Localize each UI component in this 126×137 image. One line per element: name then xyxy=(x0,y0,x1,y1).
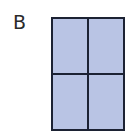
shaded-grid xyxy=(51,17,125,131)
grid-cell-bottom-right xyxy=(88,74,123,129)
grid-cell-top-left xyxy=(53,19,88,74)
grid-cell-top-right xyxy=(88,19,123,74)
grid-cell-bottom-left xyxy=(53,74,88,129)
figure-canvas: B xyxy=(0,0,126,137)
figure-label: B xyxy=(13,12,26,32)
